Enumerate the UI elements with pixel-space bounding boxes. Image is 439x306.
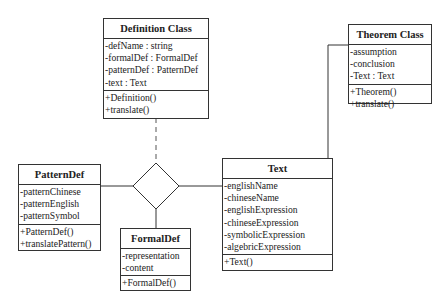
attribute: -chineseName [224, 192, 331, 204]
method: +PatternDef() [20, 226, 99, 238]
attribute: -Text : Text [350, 70, 430, 82]
class-text-attributes: -englishName -chineseName -englishExpres… [223, 179, 332, 254]
class-patterndef[interactable]: PatternDef -patternChinese -patternEngli… [18, 164, 101, 251]
class-theorem-attributes: -assumption -conclusion -Text : Text [349, 45, 431, 84]
association-diamond [133, 163, 179, 209]
attribute: -patternChinese [20, 186, 99, 198]
attribute: -representation [122, 250, 189, 262]
class-patterndef-methods: +PatternDef() +translatePattern() [19, 224, 100, 251]
method: +FormalDef() [122, 277, 189, 289]
attribute: -englishName [224, 180, 331, 192]
class-formaldef-attributes: -representation -content [121, 249, 190, 275]
attribute: -conclusion [350, 58, 430, 70]
attribute: -content [122, 262, 189, 274]
class-definition-methods: +Definition() +translate() [104, 90, 208, 117]
attribute: -assumption [350, 46, 430, 58]
class-formaldef[interactable]: FormalDef -representation -content +Form… [120, 228, 191, 291]
attribute: -patternSymbol [20, 210, 99, 222]
attribute: -text : Text [105, 77, 207, 89]
method: +translate() [350, 98, 430, 110]
class-definition-attributes: -defName : string -formalDef : FormalDef… [104, 39, 208, 90]
method: +Definition() [105, 92, 207, 104]
class-definition[interactable]: Definition Class -defName : string -form… [103, 18, 209, 119]
class-theorem-name: Theorem Class [349, 25, 431, 45]
class-patterndef-attributes: -patternChinese -patternEnglish -pattern… [19, 185, 100, 224]
class-theorem-methods: +Theorem() +translate() [349, 84, 431, 111]
method: +Theorem() [350, 86, 430, 98]
attribute: -algebricExpression [224, 241, 331, 253]
method: +translate() [105, 104, 207, 116]
class-patterndef-name: PatternDef [19, 165, 100, 185]
attribute: -symbolicExpression [224, 229, 331, 241]
attribute: -patternDef : PatternDef [105, 64, 207, 76]
attribute: -chineseExpression [224, 217, 331, 229]
class-text-methods: +Text() [223, 254, 332, 269]
class-text-name: Text [223, 159, 332, 179]
method: +Text() [224, 256, 331, 268]
attribute: -defName : string [105, 40, 207, 52]
class-definition-name: Definition Class [104, 19, 208, 39]
class-formaldef-methods: +FormalDef() [121, 275, 190, 290]
class-formaldef-name: FormalDef [121, 229, 190, 249]
class-theorem[interactable]: Theorem Class -assumption -conclusion -T… [348, 24, 432, 104]
attribute: -englishExpression [224, 204, 331, 216]
method: +translatePattern() [20, 238, 99, 250]
attribute: -formalDef : FormalDef [105, 52, 207, 64]
class-text[interactable]: Text -englishName -chineseName -englishE… [222, 158, 333, 271]
attribute: -patternEnglish [20, 198, 99, 210]
